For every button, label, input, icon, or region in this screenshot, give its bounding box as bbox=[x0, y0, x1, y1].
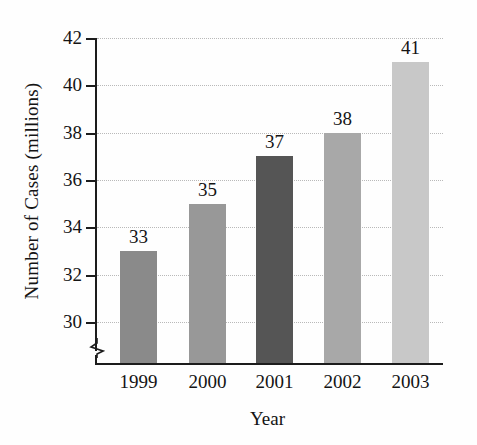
plot-area: 42403836343230 3335373841 19992000200120… bbox=[95, 30, 443, 366]
bar-value-label: 37 bbox=[265, 131, 284, 153]
bar[interactable]: 41 bbox=[392, 62, 429, 363]
y-tick-mark bbox=[86, 227, 96, 229]
y-axis-title: Number of Cases (millions) bbox=[21, 41, 43, 341]
x-axis-title: Year bbox=[95, 408, 440, 430]
y-tick-label: 32 bbox=[63, 264, 82, 286]
y-tick-mark bbox=[86, 275, 96, 277]
axis-break-icon bbox=[89, 338, 105, 358]
y-tick-label: 36 bbox=[63, 169, 82, 191]
bar-chart: Number of Cases (millions) 4240383634323… bbox=[0, 0, 477, 445]
bar-value-label: 35 bbox=[198, 179, 217, 201]
x-category-label: 2002 bbox=[324, 371, 362, 393]
y-tick-label: 40 bbox=[63, 74, 82, 96]
bar[interactable]: 38 bbox=[324, 133, 361, 363]
bar[interactable]: 33 bbox=[120, 251, 157, 363]
bar[interactable]: 35 bbox=[189, 204, 226, 363]
x-category-label: 2000 bbox=[189, 371, 227, 393]
bar[interactable]: 37 bbox=[256, 156, 293, 363]
bar-value-label: 38 bbox=[333, 108, 352, 130]
y-tick-mark bbox=[86, 180, 96, 182]
y-tick-label: 42 bbox=[63, 27, 82, 49]
y-tick-mark bbox=[86, 133, 96, 135]
bar-value-label: 33 bbox=[129, 226, 148, 248]
y-tick-label: 38 bbox=[63, 122, 82, 144]
y-tick-mark bbox=[86, 85, 96, 87]
y-tick-label: 34 bbox=[63, 216, 82, 238]
bar-value-label: 41 bbox=[401, 37, 420, 59]
y-tick-label: 30 bbox=[63, 311, 82, 333]
x-category-label: 2003 bbox=[392, 371, 430, 393]
x-axis-line bbox=[95, 363, 443, 365]
y-tick-mark bbox=[86, 38, 96, 40]
x-category-label: 1999 bbox=[120, 371, 158, 393]
x-category-label: 2001 bbox=[256, 371, 294, 393]
gridline bbox=[97, 38, 443, 39]
y-tick-mark bbox=[86, 322, 96, 324]
